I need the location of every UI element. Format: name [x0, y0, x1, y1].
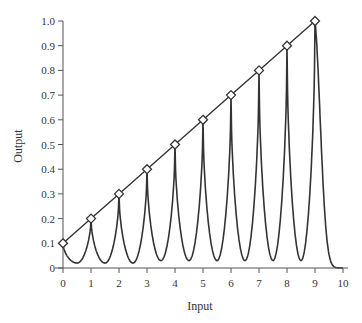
- x-tick-label: 9: [312, 277, 318, 289]
- y-tick-label: 0.6: [41, 114, 55, 126]
- y-tick-label: 0.4: [41, 163, 55, 175]
- x-tick-label: 3: [144, 277, 150, 289]
- oscillating-line: [63, 21, 343, 268]
- y-tick-label: 0.5: [41, 139, 55, 151]
- y-ticks: 00.10.20.30.40.50.60.70.80.91.0: [41, 15, 63, 274]
- y-tick-label: 0.3: [41, 188, 55, 200]
- y-tick-label: 0.9: [41, 40, 55, 52]
- x-tick-label: 8: [284, 277, 290, 289]
- y-tick-label: 0: [50, 262, 56, 274]
- y-axis-label: Output: [11, 129, 25, 163]
- x-tick-label: 4: [172, 277, 178, 289]
- x-tick-label: 6: [228, 277, 234, 289]
- x-axis-label: Input: [187, 299, 213, 313]
- y-tick-label: 0.8: [41, 64, 55, 76]
- x-ticks: 012345678910: [60, 268, 349, 289]
- chart: 00.10.20.30.40.50.60.70.80.91.0 01234567…: [0, 0, 362, 323]
- plot-lines: [63, 21, 343, 268]
- x-tick-label: 7: [256, 277, 262, 289]
- y-tick-label: 0.7: [41, 89, 55, 101]
- x-tick-label: 10: [338, 277, 350, 289]
- x-tick-label: 5: [200, 277, 206, 289]
- linear-line: [63, 21, 315, 243]
- x-tick-label: 0: [60, 277, 66, 289]
- x-tick-label: 2: [116, 277, 122, 289]
- y-tick-label: 1.0: [41, 15, 55, 27]
- y-tick-label: 0.1: [41, 237, 55, 249]
- x-tick-label: 1: [88, 277, 94, 289]
- y-tick-label: 0.2: [41, 213, 55, 225]
